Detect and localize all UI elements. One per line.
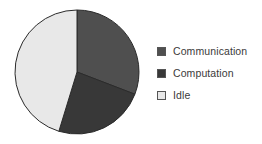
legend-item-communication[interactable]: Communication — [157, 40, 262, 62]
swatch-computation-icon — [157, 69, 166, 78]
pie-plot-area — [0, 0, 150, 144]
pie-chart-figure: Communication Computation Idle — [0, 0, 262, 144]
swatch-communication-icon — [157, 47, 166, 56]
legend-label-computation: Computation — [173, 68, 234, 79]
legend-item-idle[interactable]: Idle — [157, 84, 262, 106]
legend-label-communication: Communication — [173, 46, 247, 57]
chart-legend: Communication Computation Idle — [157, 40, 262, 106]
legend-label-idle: Idle — [173, 90, 190, 101]
swatch-idle-icon — [157, 91, 166, 100]
pie-svg — [0, 0, 150, 144]
pie-slice-group — [15, 10, 139, 134]
legend-item-computation[interactable]: Computation — [157, 62, 262, 84]
